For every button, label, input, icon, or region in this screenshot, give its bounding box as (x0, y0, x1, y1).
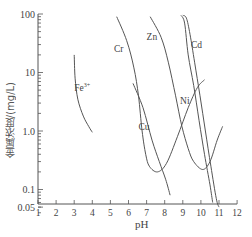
x-tick-label: 12 (232, 208, 242, 218)
x-tick-label: 4 (90, 208, 95, 218)
y-tick-label: 0.05 (18, 202, 36, 213)
curve-label-cd: Cd (191, 40, 202, 50)
curve-label-cr: Cr (114, 44, 124, 54)
y-axis-title: 金属浓度/(mg/L) (3, 82, 17, 158)
curve-label-cu: Cu (138, 122, 149, 132)
x-tick-label: 9 (180, 208, 185, 218)
axes: 100101.00.10.05123456789101112 (18, 9, 243, 219)
x-tick-label: 8 (162, 208, 167, 218)
y-tick-label: 100 (20, 9, 35, 20)
x-tick-label: 1 (36, 208, 41, 218)
y-tick-label: 10 (25, 67, 35, 78)
curve-label-zn: Zn (147, 32, 158, 42)
curve-label-ni: Ni (180, 96, 190, 106)
x-tick-label: 5 (108, 208, 113, 218)
chart-canvas: 100101.00.10.05123456789101112 Fe3+CrCuZ… (0, 0, 252, 237)
y-tick-label: 0.1 (23, 184, 36, 195)
y-tick-label: 1.0 (23, 126, 36, 137)
curve-labels: Fe3+CrCuZnNiCd (74, 32, 202, 132)
x-tick-label: 2 (54, 208, 59, 218)
x-tick-label: 3 (72, 208, 77, 218)
curve-fe3 (74, 55, 92, 132)
x-tick-label: 11 (214, 208, 223, 218)
x-axis-title: pH (135, 218, 148, 230)
x-tick-label: 6 (126, 208, 131, 218)
x-tick-label: 10 (196, 208, 206, 218)
curve-label-fe3: Fe3+ (74, 82, 91, 93)
x-tick-label: 7 (144, 208, 149, 218)
